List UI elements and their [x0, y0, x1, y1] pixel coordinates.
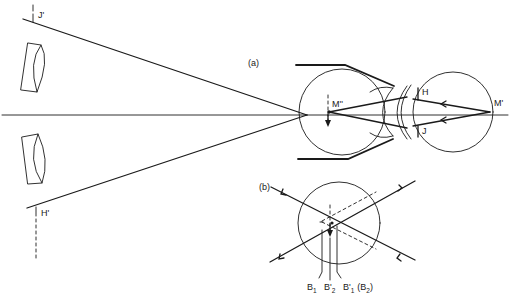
label-b1: B1	[307, 282, 317, 294]
label-b1-prime-b2: B'1(B2)	[343, 282, 373, 294]
crossing-point	[330, 221, 333, 224]
ray-j-prime	[23, 19, 307, 115]
ray-j-to-m-double-prime	[329, 112, 407, 128]
label-h: H	[422, 87, 429, 97]
arrow-lower-right-icon	[397, 254, 401, 261]
panel-b: (b) B1 B'2 B'1(B2)	[259, 181, 415, 294]
lens-bottom-edge	[370, 133, 393, 137]
lens-inner-arc	[383, 88, 394, 136]
leader-b1	[319, 230, 322, 278]
housing-bottom	[298, 139, 393, 159]
label-panel-b: (b)	[259, 182, 270, 192]
leader-b1-prime	[337, 226, 341, 278]
ray-m-prime-to-j	[413, 112, 490, 126]
label-h-prime: H'	[41, 208, 49, 218]
ray-ascending	[270, 181, 415, 262]
observer-eye-circle	[299, 69, 385, 155]
lens-top-edge	[370, 87, 393, 92]
optics-diagram: J' H' (a) H J	[0, 0, 510, 301]
label-b2-prime: B'2	[324, 282, 336, 294]
ray-h-prime	[27, 115, 307, 208]
upper-lens-icon	[21, 43, 45, 92]
label-m-double-prime: M''	[332, 99, 343, 109]
arrow-upper-right-icon	[398, 185, 402, 191]
ray-m-prime-to-h	[413, 99, 490, 112]
panel-a: J' H' (a) H J	[2, 5, 508, 258]
label-j: J	[422, 126, 427, 136]
subject-eye-circle	[413, 72, 493, 152]
lower-lens-icon	[22, 134, 45, 184]
label-m-prime: M'	[494, 98, 503, 108]
down-arrow-icon	[325, 120, 331, 127]
down-arrow-b-icon	[327, 230, 333, 237]
label-j-prime: J'	[38, 10, 45, 20]
label-panel-a: (a)	[248, 58, 259, 68]
